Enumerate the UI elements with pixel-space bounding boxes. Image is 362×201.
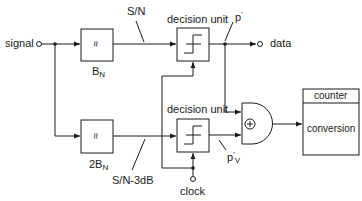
- counter-header-label: counter: [314, 91, 347, 101]
- data-output-terminal: [258, 42, 263, 47]
- p-prime-label: p': [235, 11, 243, 23]
- snr-bottom-label: S/N-3dB: [112, 175, 154, 186]
- decision-unit-top-label: decision unit: [167, 14, 228, 25]
- junction-clock: [191, 166, 195, 170]
- snr-bottom-pointer: [132, 139, 145, 170]
- filter-top-symbol: ≈: [90, 40, 101, 46]
- junction-p-prime: [223, 42, 227, 46]
- filter-bottom-symbol: ≈: [90, 132, 101, 138]
- clock-label: clock: [180, 186, 205, 197]
- pv-sub: V: [235, 156, 240, 165]
- pv-label: p'V: [227, 151, 240, 165]
- filter-top-bw-sub: N: [99, 70, 105, 79]
- signal-label: signal: [5, 38, 34, 49]
- filter-bottom-bw-sub: N: [102, 163, 108, 172]
- signal-input-terminal: [37, 42, 42, 47]
- data-label: data: [270, 38, 291, 49]
- snr-top-pointer: [136, 21, 144, 42]
- decision-unit-bottom-label: decision unit: [167, 104, 228, 115]
- pv-pointer: [219, 140, 226, 150]
- filter-top-bandwidth: BN: [92, 66, 105, 79]
- xor-gate-shape: [242, 103, 273, 144]
- diagram-canvas: [0, 0, 362, 201]
- snr-top-label: S/N: [127, 6, 145, 17]
- p-prime-to-gate-line: [225, 44, 241, 112]
- junction-signal: [53, 42, 57, 46]
- p-prime-mark: ': [241, 10, 243, 19]
- clock-terminal: [191, 177, 196, 182]
- signal-to-bottom-filter-line: [55, 44, 80, 136]
- counter-body-label: conversion: [307, 124, 355, 134]
- filter-bottom-bandwidth: 2BN: [89, 159, 108, 172]
- filter-bottom-bw-main: 2B: [89, 158, 102, 170]
